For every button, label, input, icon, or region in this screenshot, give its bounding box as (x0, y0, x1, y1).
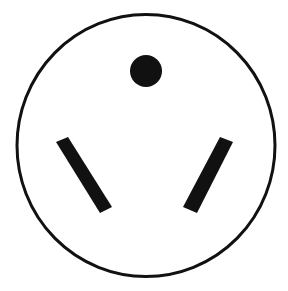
background (0, 0, 288, 291)
outlet-diagram (0, 0, 288, 291)
ground-hole-icon (130, 55, 162, 87)
